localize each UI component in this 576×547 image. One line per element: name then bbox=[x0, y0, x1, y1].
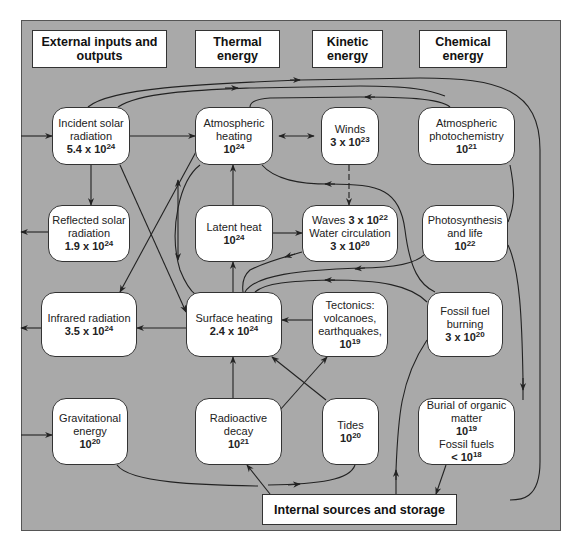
node-winds: Winds 3 x 1023 bbox=[321, 107, 379, 165]
node-value: 1019 bbox=[339, 338, 360, 351]
node-label: Reflected solar radiation bbox=[51, 214, 127, 240]
node-value-2: 3 x 1020 bbox=[330, 240, 370, 253]
node-label: Photosynthesis and life bbox=[425, 214, 505, 240]
node-value-2: < 1018 bbox=[451, 451, 482, 464]
node-label-2: Fossil fuels bbox=[439, 438, 494, 451]
node-burial-organic-matter: Burial of organic matter 1019 Fossil fue… bbox=[418, 398, 515, 465]
node-label: Tectonics: volcanoes, earthquakes, bbox=[315, 299, 385, 338]
node-value: 3 x 1020 bbox=[445, 331, 485, 344]
header-kinetic: Kinetic energy bbox=[312, 30, 383, 68]
node-label: Radioactive decay bbox=[198, 412, 279, 438]
node-photosynthesis: Photosynthesis and life 1022 bbox=[422, 205, 508, 262]
node-label: Burial of organic matter bbox=[421, 399, 512, 425]
node-latent-heat: Latent heat 1024 bbox=[195, 205, 273, 262]
node-reflected-solar: Reflected solar radiation 1.9 x 1024 bbox=[48, 205, 130, 262]
header-external: External inputs and outputs bbox=[32, 30, 167, 68]
node-fossil-fuel-burning: Fossil fuel burning 3 x 1020 bbox=[427, 292, 503, 357]
node-tides: Tides 1020 bbox=[322, 398, 379, 465]
node-gravitational-energy: Gravitational energy 1020 bbox=[52, 398, 128, 465]
node-atmospheric-photochemistry: Atmospheric photochemistry 1021 bbox=[418, 107, 515, 165]
node-value: 1019 bbox=[456, 425, 477, 438]
node-surface-heating: Surface heating 2.4 x 1024 bbox=[186, 292, 282, 357]
node-waves-water-circulation: Waves 3 x 1022 Water circulation 3 x 102… bbox=[302, 205, 398, 262]
node-value: 1024 bbox=[223, 143, 244, 156]
node-infrared-radiation: Infrared radiation 3.5 x 1024 bbox=[41, 292, 137, 357]
node-value: 1020 bbox=[79, 438, 100, 451]
header-thermal: Thermal energy bbox=[195, 30, 280, 68]
internal-sources-storage: Internal sources and storage bbox=[262, 494, 457, 525]
node-value: 5.4 x 1024 bbox=[67, 143, 116, 156]
node-label: Fossil fuel burning bbox=[430, 305, 500, 331]
node-value: 1020 bbox=[340, 432, 361, 445]
node-value: 2.4 x 1024 bbox=[210, 325, 259, 338]
header-chemical: Chemical energy bbox=[419, 30, 507, 68]
node-value: 3 x 1023 bbox=[330, 136, 370, 149]
node-incident-solar: Incident solar radiation 5.4 x 1024 bbox=[52, 107, 130, 165]
node-label: Surface heating bbox=[195, 312, 272, 325]
node-label-2: Water circulation bbox=[309, 227, 391, 240]
node-value: 1.9 x 1024 bbox=[65, 240, 114, 253]
node-label: Latent heat bbox=[206, 221, 261, 234]
node-value: 3.5 x 1024 bbox=[65, 325, 114, 338]
node-value: 1021 bbox=[228, 438, 249, 451]
node-label: Atmospheric photochemistry bbox=[421, 117, 512, 143]
node-tectonics: Tectonics: volcanoes, earthquakes, 1019 bbox=[312, 292, 388, 357]
node-label: Atmospheric heating bbox=[198, 117, 270, 143]
node-value: 1024 bbox=[223, 234, 244, 247]
node-value: 1021 bbox=[456, 143, 477, 156]
node-value: 1022 bbox=[454, 240, 475, 253]
node-label: Gravitational energy bbox=[55, 412, 125, 438]
node-label: Incident solar radiation bbox=[55, 117, 127, 143]
node-atmospheric-heating: Atmospheric heating 1024 bbox=[195, 107, 273, 165]
node-radioactive-decay: Radioactive decay 1021 bbox=[195, 398, 282, 465]
node-label: Waves 3 x 1022 bbox=[312, 214, 388, 227]
node-label: Infrared radiation bbox=[47, 312, 130, 325]
